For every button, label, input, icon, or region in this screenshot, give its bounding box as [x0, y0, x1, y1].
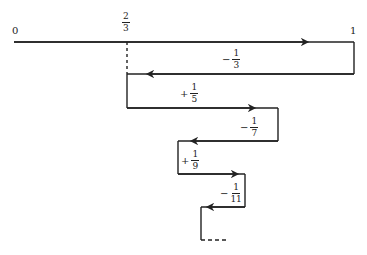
label-one: 1	[350, 26, 356, 36]
term-minus-one-seventh: − 17	[240, 117, 258, 138]
label-two-thirds: 2 3	[122, 12, 130, 33]
label-zero: 0	[12, 26, 18, 36]
term-minus-one-third: − 13	[222, 49, 240, 70]
term-plus-one-fifth: + 15	[180, 83, 198, 104]
term-minus-one-eleventh: − 111	[220, 183, 242, 204]
term-plus-one-ninth: + 19	[181, 150, 199, 171]
path-drawing	[0, 0, 367, 255]
diagram-canvas: 0 1 2 3 − 13 + 15 − 17 + 19 − 111	[0, 0, 367, 255]
